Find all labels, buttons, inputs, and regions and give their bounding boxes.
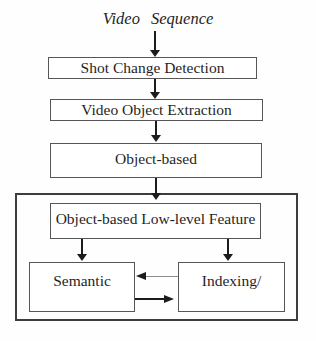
arrowhead-down-icon [150,92,160,99]
arrow-video-object-to-object-based [150,121,162,142]
arrow-low-level-to-semantic [76,239,88,261]
flowchart-diagram: Video Sequence Shot Change Detection Vid… [0,0,316,341]
arrow-shaft [81,239,83,254]
arrowhead-down-icon [151,135,161,142]
node-object-based: Object-based [50,143,262,178]
node-label: Object-based Low-level Feature [56,210,256,228]
node-label: Indexing/ [202,272,261,290]
arrow-object-based-to-low-level [150,178,162,200]
arrow-shaft [227,239,229,254]
arrow-title-to-shot-change [149,31,161,57]
node-video-object-extraction: Video Object Extraction [50,99,263,121]
diagram-title: Video Sequence [0,9,316,29]
arrow-shaft [135,298,164,300]
arrow-semantic-to-indexing [135,294,174,304]
arrowhead-down-icon [223,254,233,261]
node-label: Video Object Extraction [81,101,232,119]
node-indexing: Indexing/ [178,262,285,312]
node-object-based-low-level-feature: Object-based Low-level Feature [50,203,261,239]
arrow-low-level-to-indexing [222,239,234,261]
arrow-shaft [155,121,157,135]
node-label: Object-based [115,150,197,168]
arrow-shaft [154,31,156,50]
arrowhead-down-icon [151,193,161,200]
node-label: Semantic [53,272,111,290]
arrow-shaft [155,178,157,193]
arrow-indexing-to-semantic [136,271,178,281]
arrowhead-left-icon [136,272,146,280]
node-shot-change-detection: Shot Change Detection [48,57,257,79]
arrowhead-down-icon [77,254,87,261]
arrowhead-down-icon [150,50,160,57]
arrow-shot-change-to-video-object [149,79,161,99]
node-label: Shot Change Detection [81,59,225,77]
arrow-shaft [146,276,178,277]
node-semantic: Semantic [29,262,135,312]
arrow-shaft [154,79,156,92]
arrowhead-right-icon [164,295,174,303]
